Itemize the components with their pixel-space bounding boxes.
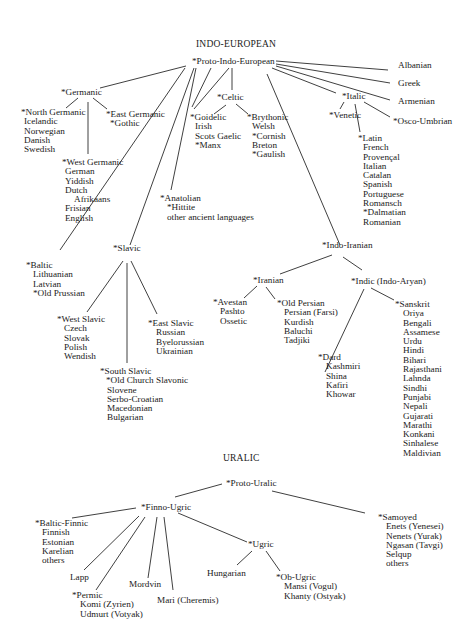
lang-item: Khowar (318, 390, 360, 399)
node-greek: Greek (398, 79, 420, 88)
group-avestan: *Avestan Pashto Ossetic (213, 298, 247, 326)
group-samoyed: *Samoyed Enets (Yenesei) Nenets (Yurak) … (378, 513, 444, 569)
lang-item: Bulgarian (100, 413, 188, 422)
node-ugric: *Ugric (248, 540, 274, 549)
group-latin: *Latin French Provençal Italian Catalan … (358, 134, 406, 227)
node-italic: *Italic (342, 92, 365, 101)
group-west-slavic: *West Slavic Czech Slovak Polish Wendish (57, 315, 105, 361)
lang-item: Swedish (21, 145, 86, 154)
lang-item: Ukrainian (148, 347, 204, 356)
node-osco-umbrian: *Osco-Umbrian (393, 117, 452, 126)
group-baltic: *Baltic Lithuanian Latvian *Old Prussian (26, 261, 85, 298)
lang-item: others (378, 559, 444, 568)
node-hungarian: Hungarian (207, 569, 246, 578)
node-celtic: *Celtic (217, 93, 244, 102)
lang-item: other ancient languages (160, 213, 254, 222)
node-germanic: *Germanic (61, 88, 102, 97)
node-proto-indo-european: *Proto-Indo-European (192, 57, 275, 66)
node-proto-uralic: *Proto-Uralic (226, 479, 277, 488)
node-indic: *Indic (Indo-Aryan) (351, 277, 426, 286)
node-mari: Mari (Cheremis) (157, 596, 219, 605)
section-title-uralic: URALIC (223, 453, 260, 463)
node-mordvin: Mordvin (129, 580, 161, 589)
group-brythonic: *Brythonic Welsh *Cornish Breton *Gaulis… (247, 113, 288, 159)
group-anatolian: *Anatolian *Hittite other ancient langua… (160, 194, 254, 222)
node-indo-iranian: *Indo-Iranian (322, 241, 373, 250)
node-venetic: *Venetic (329, 111, 361, 120)
lang-item: *Gaulish (247, 150, 288, 159)
lang-item: Tadjiki (277, 336, 338, 345)
group-south-slavic: *South Slavic *Old Church Slavonic Slove… (100, 367, 188, 423)
group-west-germanic: *West Germanic German Yiddish Dutch Afri… (62, 158, 123, 223)
group-north-germanic: *North Germanic Icelandic Norwegian Dani… (21, 108, 86, 154)
group-sanskrit: *Sanskrit Oriya Bengali Assamese Urdu Hi… (395, 300, 442, 458)
group-baltic-finnic: *Baltic-Finnic Finnish Estonian Karelian… (35, 519, 88, 565)
node-slavic: *Slavic (113, 244, 141, 253)
lang-item: Maldivian (395, 449, 442, 458)
lang-item: *Manx (190, 141, 241, 150)
lang-item: *Old Prussian (26, 289, 85, 298)
group-dard: *Dard Kashmiri Shina Kafiri Khowar (318, 353, 360, 399)
section-title-indo-european: INDO-EUROPEAN (196, 39, 276, 49)
lang-item: Wendish (57, 352, 105, 361)
lang-item: Khanty (Ostyak) (276, 592, 346, 601)
group-ob-ugric: *Ob-Ugric Mansi (Vogul) Khanty (Ostyak) (276, 573, 346, 601)
node-iranian: *Iranian (253, 276, 284, 285)
node-finno-ugric: *Finno-Ugric (141, 503, 191, 512)
lang-item: Udmurt (Votyak) (72, 610, 143, 619)
lang-item: others (35, 556, 88, 565)
group-old-persian: *Old Persian Persian (Farsi) Kurdish Bal… (277, 299, 338, 345)
node-albanian: Albanian (398, 61, 432, 70)
group-east-slavic: *East Slavic Russian Byelorussian Ukrain… (148, 319, 204, 356)
lang-item: Romanian (358, 218, 406, 227)
lang-item: English (62, 214, 123, 223)
node-lapp: Lapp (70, 573, 89, 582)
lang-item: *Gothic (106, 119, 165, 128)
group-goidelic: *Goidelic Irish Scots Gaelic *Manx (190, 113, 241, 150)
group-east-germanic: *East Germanic *Gothic (106, 110, 165, 129)
node-armenian: Armenian (398, 97, 435, 106)
lang-item: Ossetic (213, 317, 247, 326)
group-permic: *Permic Komi (Zyrien) Udmurt (Votyak) (72, 591, 143, 619)
